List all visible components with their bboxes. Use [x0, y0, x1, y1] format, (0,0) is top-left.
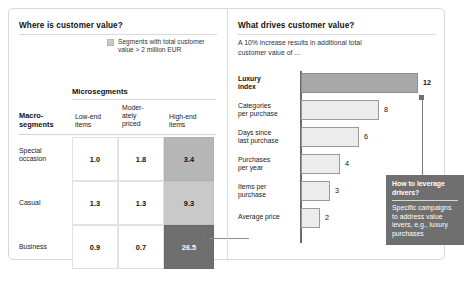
legend-label: Segments with total customer value > 2 m…: [118, 38, 222, 55]
callout-body: Specific campaigns to address value leve…: [392, 204, 458, 238]
callout-divider: [392, 200, 458, 201]
bar-value: 12: [423, 78, 431, 87]
bar-label: Days sincelast purchase: [238, 129, 298, 145]
bar-value: 2: [325, 213, 329, 222]
row-label-business: Business: [19, 243, 71, 251]
bar-days-since-last-purchase: [301, 127, 359, 147]
bar-label: Categoriesper purchase: [238, 102, 298, 118]
bar-value: 6: [364, 132, 368, 141]
bar-luxury-index: [301, 73, 418, 93]
bar-value: 3: [335, 186, 339, 195]
row-label-special-occasion: Specialoccasion: [19, 147, 71, 164]
callout-box: How to leverage drivers? Specific campai…: [386, 175, 464, 245]
bar-label: Purchasesper year: [238, 156, 298, 172]
table-cell-highlight-dark: 26.5: [164, 225, 214, 269]
bar-purchases-per-year: [301, 154, 340, 174]
right-title-divider: [238, 34, 436, 35]
bar-value: 8: [384, 105, 388, 114]
table-cell: 0.7: [118, 225, 164, 269]
panel-what-drives-customer-value: What drives customer value? A 10% increa…: [227, 9, 446, 261]
bar-label: Luxuryindex: [238, 75, 298, 91]
row-label-casual: Casual: [19, 199, 71, 207]
legend-swatch-icon: [107, 39, 114, 46]
microsegments-divider: [72, 99, 216, 100]
bar-label: Items perpurchase: [238, 183, 298, 199]
macro-segments-line2: segments: [19, 120, 54, 129]
column-header-low-end: Low-enditems: [75, 113, 115, 129]
table-cell: 1.3: [118, 181, 164, 225]
connector-arrow-icon: [205, 235, 209, 241]
panel-where-is-customer-value: Where is customer value? Segments with t…: [9, 9, 227, 261]
macro-segments-line1: Macro-: [19, 111, 43, 120]
column-header-high-end: High-enditems: [169, 113, 213, 129]
drivers-bar-chart: Luxuryindex 12 Categoriesper purchase 8 …: [238, 71, 446, 251]
table-cell-highlight: 3.4: [164, 137, 214, 181]
table-cell-highlight: 9.3: [164, 181, 214, 225]
intro-text: A 10% increase results in additional tot…: [238, 38, 362, 57]
table-cell: 1.0: [72, 137, 118, 181]
table-cell: 1.8: [118, 137, 164, 181]
table-cell: 0.9: [72, 225, 118, 269]
left-title-divider: [19, 34, 217, 35]
left-panel-title: Where is customer value?: [19, 21, 123, 30]
leader-line: [422, 97, 423, 175]
bar-average-price: [301, 208, 320, 228]
slide-frame: Where is customer value? Segments with t…: [8, 8, 445, 260]
bar-categories-per-purchase: [301, 100, 379, 120]
bar-items-per-purchase: [301, 181, 330, 201]
callout-title: How to leverage drivers?: [392, 180, 458, 197]
microsegments-heading: Microsegments: [72, 87, 128, 96]
macro-segments-heading: Macro- segments: [19, 111, 71, 129]
bar-value: 4: [345, 159, 349, 168]
matrix-header-divider: [19, 134, 216, 135]
table-cell: 1.3: [72, 181, 118, 225]
bar-label: Average price: [238, 213, 298, 221]
right-panel-title: What drives customer value?: [238, 21, 354, 30]
column-header-moderately-priced: Moder-atelypriced: [122, 104, 162, 129]
